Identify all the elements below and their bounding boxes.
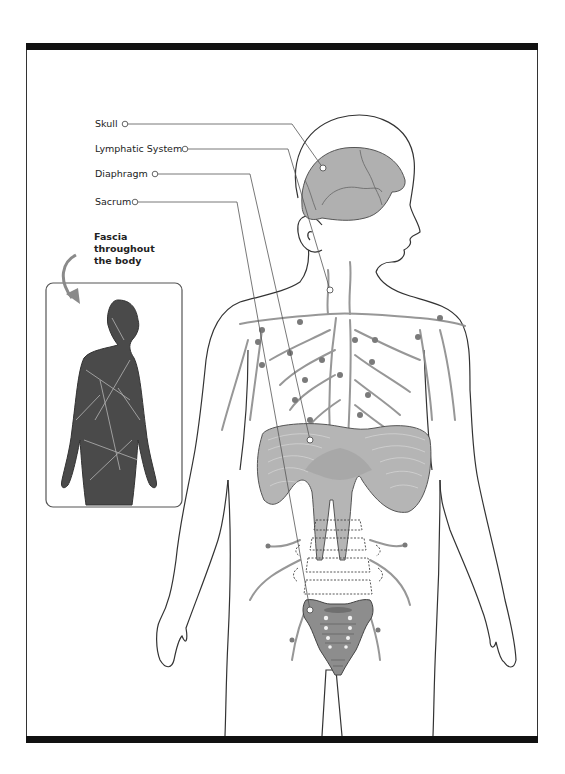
sacrum-label-dot: [132, 199, 138, 205]
brain: [302, 147, 405, 220]
lymphatic-target-dot: [327, 287, 333, 293]
lymphatic-leader: [188, 149, 330, 290]
sacrum: [303, 600, 373, 675]
anatomy-illustration: [0, 0, 565, 774]
skull-label-dot: [122, 121, 128, 127]
label-lymphatic-system: Lymphatic System: [95, 143, 182, 154]
skull-target-dot: [320, 165, 326, 171]
label-skull: Skull: [95, 118, 118, 129]
diaphragm-label-dot: [152, 171, 158, 177]
label-sacrum: Sacrum: [95, 196, 131, 207]
diaphragm: [257, 424, 431, 560]
diaphragm-target-dot: [307, 437, 313, 443]
fascia-caption-line-3: the body: [94, 255, 164, 267]
fascia-caption-line-2: throughout: [94, 243, 164, 255]
label-diaphragm: Diaphragm: [95, 168, 148, 179]
fascia-inset: [46, 255, 182, 507]
fascia-caption-line-1: Fascia: [94, 231, 164, 243]
sacrum-target-dot: [307, 607, 313, 613]
fascia-caption: Fascia throughout the body: [94, 231, 164, 267]
lymphatic-label-dot: [182, 146, 188, 152]
